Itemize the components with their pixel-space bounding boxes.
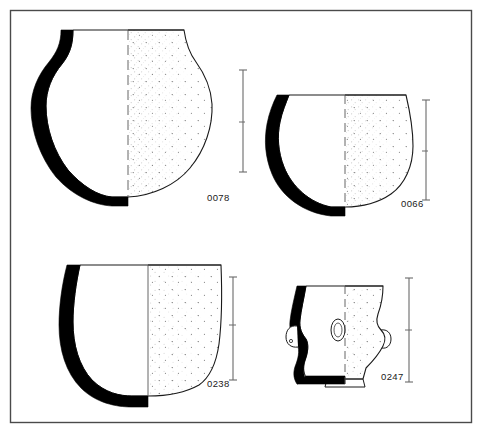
vessel-0247-lug-handle-left [286, 326, 298, 347]
vessel-0247-oval-boss [331, 319, 345, 341]
vessel-label-0247: 0247 [381, 371, 404, 382]
vessel-0247-section-base [297, 376, 345, 384]
vessel-0066-section-base [331, 207, 345, 216]
plate-drawing [0, 0, 481, 438]
vessel-label-0066: 0066 [401, 198, 424, 209]
pottery-plate: 0078 0066 0238 0247 [0, 0, 481, 438]
vessel-label-0238: 0238 [207, 378, 230, 389]
vessel-0078-section-base [112, 197, 128, 206]
vessel-label-0078: 0078 [207, 192, 230, 203]
vessel-0238-section-base [132, 396, 148, 407]
